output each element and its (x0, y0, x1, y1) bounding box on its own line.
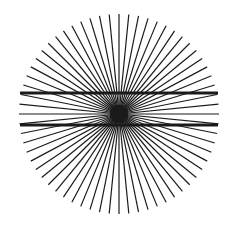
ray-line (56, 37, 119, 114)
ray-line (119, 37, 182, 114)
ray-line (42, 51, 119, 114)
ray-line (119, 51, 196, 114)
hering-illusion-drawing (0, 0, 237, 231)
center-blob (110, 105, 128, 123)
